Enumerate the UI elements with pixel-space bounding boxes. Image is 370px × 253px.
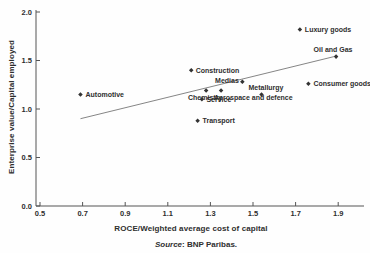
data-point-label-oil-and-gas: Oil and Gas [314, 46, 353, 53]
y-tick-label: 0.5 [22, 153, 32, 162]
data-point-luxury-goods [298, 27, 303, 32]
data-point-oil-and-gas [334, 54, 339, 59]
data-point-chemistry [204, 88, 209, 93]
data-point-transport [195, 118, 200, 123]
x-tick-label: 0.7 [77, 209, 87, 218]
source-text: : BNP Paribas. [182, 240, 237, 249]
data-point-label-transport: Transport [203, 117, 236, 125]
data-point-label-consumer-goods: Consumer goods [313, 80, 370, 88]
data-point-consumer-goods [306, 82, 311, 87]
data-point-automotive [78, 92, 83, 97]
x-tick-label: 0.5 [35, 209, 45, 218]
x-tick-label: 1.3 [205, 209, 215, 218]
data-point-label-luxury-goods: Luxury goods [305, 26, 351, 34]
x-tick-label: 0.9 [120, 209, 130, 218]
x-tick-label: 1.7 [290, 209, 300, 218]
data-point-aerospace-and-defence [219, 88, 224, 93]
chart-canvas: 0.50.70.91.11.31.51.71.90.00.51.01.52.0A… [0, 0, 370, 253]
x-tick-label: 1.1 [163, 209, 173, 218]
y-axis-title: Enterprise value/Capital employed [7, 40, 16, 174]
data-point-label-service: Service [206, 96, 231, 103]
x-tick-label: 1.9 [333, 209, 343, 218]
x-tick-label: 1.5 [248, 209, 258, 218]
source-note: Source: BNP Paribas. [155, 240, 237, 249]
x-axis-title: ROCE/Weighted average cost of capital [114, 224, 267, 233]
y-tick-label: 1.5 [22, 56, 32, 65]
y-tick-label: 0.0 [22, 202, 32, 211]
y-tick-label: 1.0 [22, 105, 32, 114]
y-tick-label: 2.0 [22, 8, 32, 17]
scatter-figure: 0.50.70.91.11.31.51.71.90.00.51.01.52.0A… [0, 0, 370, 253]
source-label: Source [155, 240, 182, 249]
data-point-label-metallurgy: Metallurgy [249, 84, 284, 92]
data-point-label-medias: Medias [215, 77, 239, 84]
data-point-label-automotive: Automotive [85, 91, 124, 98]
data-point-construction [189, 68, 194, 73]
data-point-label-construction: Construction [196, 67, 240, 74]
data-point-medias [240, 80, 245, 85]
